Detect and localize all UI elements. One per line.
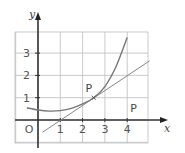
tick-labels: 1234123Oxy — [23, 8, 171, 136]
tangent-line — [42, 61, 149, 132]
x-tick-label: 4 — [124, 123, 131, 136]
origin-label: O — [25, 123, 34, 136]
curve — [27, 37, 127, 111]
y-axis-label: y — [28, 8, 36, 21]
y-axis-arrow-icon — [35, 12, 41, 20]
x-tick-label: 1 — [57, 123, 64, 136]
graph: 1234123Oxy PP — [0, 0, 185, 153]
y-tick-label: 1 — [23, 92, 30, 105]
p-label-axis: P — [130, 102, 137, 115]
x-tick-label: 3 — [101, 123, 108, 136]
point-p-label: P — [85, 82, 92, 95]
y-tick-label: 2 — [23, 69, 30, 82]
y-tick-label: 3 — [23, 47, 30, 60]
x-axis-label: x — [164, 122, 171, 135]
x-tick-label: 2 — [79, 123, 86, 136]
